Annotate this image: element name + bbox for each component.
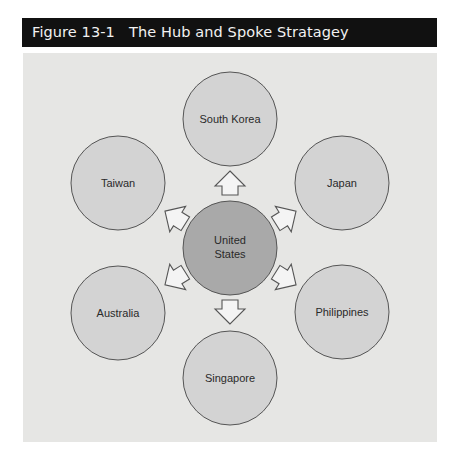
hub-united-states: United States xyxy=(183,201,277,295)
spoke-label: Philippines xyxy=(315,306,369,318)
spoke-label: Australia xyxy=(97,307,141,319)
spoke-label: Taiwan xyxy=(101,177,135,189)
spoke-south-korea: South Korea xyxy=(183,72,277,166)
arrow-up-icon xyxy=(215,171,245,195)
spoke-japan: Japan xyxy=(295,136,389,230)
spoke-label: Japan xyxy=(327,177,357,189)
arrow-down-icon xyxy=(215,300,245,324)
spoke-philippines: Philippines xyxy=(295,265,389,359)
spoke-label: South Korea xyxy=(199,113,261,125)
spoke-singapore: Singapore xyxy=(183,331,277,425)
hub-label-line1: United xyxy=(214,234,246,246)
spoke-label: Singapore xyxy=(205,372,255,384)
spoke-taiwan: Taiwan xyxy=(71,136,165,230)
hub-spoke-diagram: South Korea Japan Philippines Singapore … xyxy=(0,0,455,459)
hub-label-line2: States xyxy=(214,248,246,260)
spoke-australia: Australia xyxy=(71,266,165,360)
